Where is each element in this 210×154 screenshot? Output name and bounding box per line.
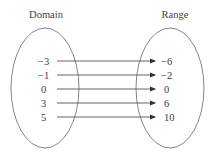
mapping-arrows [57,61,155,117]
domain-value: 3 [41,98,46,109]
range-title: Range [162,9,189,20]
range-value: −6 [161,56,172,67]
mapping-diagram: Domain Range −3 −1 0 3 5 −6 −2 0 6 10 [0,0,210,154]
domain-values: −3 −1 0 3 5 [38,56,49,123]
range-value: 6 [164,98,169,109]
range-oval [136,28,204,148]
domain-value: 0 [41,84,46,95]
domain-value: −1 [38,70,49,81]
domain-title: Domain [29,9,64,20]
domain-value: −3 [38,56,49,67]
domain-value: 5 [41,112,46,123]
range-value: 10 [164,112,175,123]
range-value: −2 [161,70,172,81]
range-values: −6 −2 0 6 10 [161,56,175,123]
range-value: 0 [164,84,169,95]
